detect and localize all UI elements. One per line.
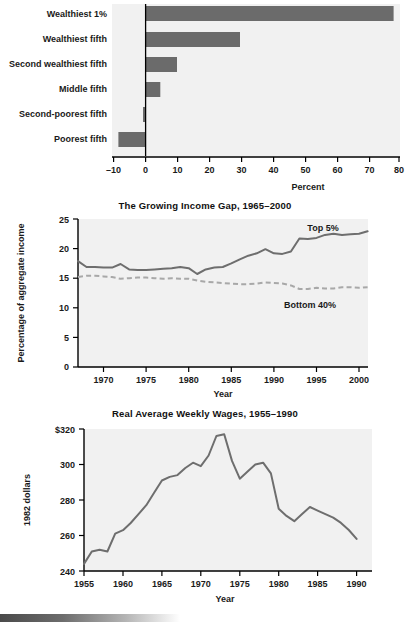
income-gap-plot-background <box>78 219 368 367</box>
real-wages-svg: 240 260 280 300 $320 1982 dollars 1955 1… <box>0 419 410 609</box>
real-wages-x-tick-marks <box>84 571 357 576</box>
income-gap-y-tick-label: 15 <box>59 273 69 283</box>
real-wages-y-tick-marks <box>79 429 84 571</box>
real-wages-y-tick-label: 280 <box>60 496 75 506</box>
bar-x-tick-label: 60 <box>333 165 343 175</box>
income-gap-x-tick-label: 1970 <box>93 375 113 385</box>
income-gap-y-tick-label: 5 <box>64 333 69 343</box>
income-gap-y-tick-label: 0 <box>64 362 69 372</box>
real-wages-y-tick-label: 300 <box>60 460 75 470</box>
income-gap-x-axis-title: Year <box>213 389 233 399</box>
bar-category-label: Wealthiest 1% <box>47 9 107 19</box>
bar-category-label: Wealthiest fifth <box>43 34 107 44</box>
real-wages-x-axis-title: Year <box>215 594 235 604</box>
bar-rect <box>146 6 394 21</box>
income-gap-x-tick-label: 2000 <box>349 375 369 385</box>
bar-rect <box>146 82 161 97</box>
bar-rect <box>118 132 145 147</box>
bar-x-tick-label: 30 <box>237 165 247 175</box>
bar-x-tick-label: –10 <box>106 165 121 175</box>
income-gap-x-tick-label: 1995 <box>306 375 326 385</box>
page-bottom-gradient-strip <box>0 614 180 622</box>
income-gap-x-tick-label: 1975 <box>136 375 156 385</box>
real-wages-y-axis-title: 1982 dollars <box>22 474 32 526</box>
real-wages-x-tick-label: 1965 <box>152 579 172 589</box>
real-wages-x-tick-label: 1960 <box>113 579 133 589</box>
real-wages-y-tick-label: 260 <box>60 531 75 541</box>
bar-x-tick-label: 10 <box>173 165 183 175</box>
income-gap-x-tick-label: 1980 <box>179 375 199 385</box>
series-label-top-5-percent: Top 5% <box>307 223 338 233</box>
income-gap-title: The Growing Income Gap, 1965–2000 <box>0 196 410 211</box>
bar-x-tick-label: 40 <box>269 165 279 175</box>
real-wages-x-tick-label: 1980 <box>269 579 289 589</box>
bar-x-tick-label: 70 <box>365 165 375 175</box>
real-wages-x-tick-label: 1955 <box>74 579 94 589</box>
income-gap-y-tick-label: 20 <box>59 244 69 254</box>
bar-x-tick-label: 80 <box>394 165 404 175</box>
income-gap-y-tick-label: 10 <box>59 303 69 313</box>
income-gap-x-tick-marks <box>104 367 360 372</box>
bar-rect <box>146 32 240 47</box>
bar-plot-background <box>112 4 400 156</box>
bar-x-tick-label: 50 <box>301 165 311 175</box>
income-gap-figure: The Growing Income Gap, 1965–2000 0 5 10… <box>0 196 410 404</box>
income-gap-x-tick-label: 1990 <box>264 375 284 385</box>
real-wages-x-tick-label: 1975 <box>230 579 250 589</box>
bar-x-tick-label: 20 <box>205 165 215 175</box>
real-wages-x-tick-label: 1990 <box>347 579 367 589</box>
bar-chart-figure: Wealthiest 1% Wealthiest fifth Second we… <box>0 0 410 196</box>
bar-rect <box>146 57 177 72</box>
real-wages-x-tick-label: 1985 <box>308 579 328 589</box>
bar-category-label: Second wealthiest fifth <box>9 59 107 69</box>
real-wages-x-tick-label: 1970 <box>191 579 211 589</box>
bar-category-label: Middle fifth <box>59 84 107 94</box>
real-wages-y-tick-label: $320 <box>55 425 75 435</box>
income-gap-x-tick-label: 1985 <box>221 375 241 385</box>
real-wages-title: Real Average Weekly Wages, 1955–1990 <box>0 404 410 419</box>
real-wages-figure: Real Average Weekly Wages, 1955–1990 240… <box>0 404 410 610</box>
income-gap-y-tick-label: 25 <box>59 215 69 225</box>
bar-category-label: Poorest fifth <box>54 134 107 144</box>
bar-chart-svg: Wealthiest 1% Wealthiest fifth Second we… <box>0 0 410 196</box>
bar-x-tick-label: 0 <box>143 165 148 175</box>
bar-category-label: Second-poorest fifth <box>19 109 107 119</box>
income-gap-svg: 0 5 10 15 20 25 Percentage of aggregate … <box>0 211 410 401</box>
income-gap-y-axis-title: Percentage of aggregate income <box>16 223 26 362</box>
bar-x-tick-marks <box>114 157 399 162</box>
real-wages-y-tick-label: 240 <box>60 567 75 577</box>
income-gap-y-tick-marks <box>73 219 78 367</box>
series-label-bottom-40-percent: Bottom 40% <box>284 300 336 310</box>
bar-x-axis-title: Percent <box>291 182 324 192</box>
